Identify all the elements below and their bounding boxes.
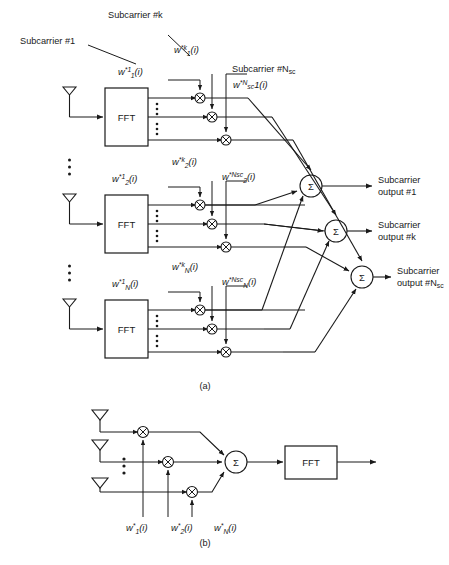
svg-text:w*k1(i): w*k1(i) — [174, 44, 199, 58]
antenna-ellipsis-top — [68, 159, 71, 176]
weight-label-w-1-1: w*11(i) — [118, 66, 143, 80]
link-row2sc1-to-sum1 — [255, 191, 297, 205]
row-N-group: FFT — [63, 286, 305, 358]
antenna-N-icon — [63, 299, 103, 329]
svg-text:w*1(i): w*1(i) — [126, 522, 148, 536]
wb-N-arg: (i) — [228, 522, 236, 533]
panel-b-multiplier-1 — [138, 427, 149, 438]
panel-b-antenna-ellipsis — [122, 457, 125, 474]
multiplier-rowN-sc1 — [195, 305, 205, 315]
link-row1sck-to-sumk — [272, 117, 336, 215]
w-k-1-arg: (i) — [191, 44, 199, 55]
link-row1scnsc-to-sumnsc — [293, 140, 362, 261]
link-row2scnsc-to-sumnsc — [306, 247, 349, 271]
link-rowNsc1-to-sum1 — [262, 196, 303, 310]
weight-line-w-1-2 — [168, 187, 200, 197]
w-k-N-arg: (i) — [190, 261, 198, 272]
svg-text:w*12(i): w*12(i) — [112, 173, 137, 187]
svg-text:w*N(i): w*N(i) — [214, 522, 237, 536]
multiplier-row2-scnsc — [221, 242, 231, 252]
weight-line-w-1-N — [168, 292, 200, 302]
multiplier-row1-sc1 — [195, 93, 205, 103]
panel-b-summer: Σ — [225, 451, 247, 473]
panel-b-weight-label-2: w*2(i) — [171, 522, 193, 536]
panel-b-group: Σ FFT w*1(i) w*2(i) w*N(i) (b) — [92, 410, 376, 548]
fft-block-row-2-label: FFT — [118, 219, 136, 230]
antenna-ellipsis-bottom — [68, 265, 71, 282]
w-1-N-arg: (i) — [130, 278, 138, 289]
svg-text:Subcarrier #Nsc: Subcarrier #Nsc — [232, 64, 296, 75]
svg-text:w*11(i): w*11(i) — [118, 66, 143, 80]
output-label-nsc-sub: sc — [437, 282, 444, 289]
panel-b-antenna-1-icon — [92, 410, 138, 432]
wb-2-arg: (i) — [184, 522, 192, 533]
summer-nsc-label: Σ — [359, 272, 365, 283]
multiplier-row1-sck — [207, 112, 217, 122]
caption-panel-b: (b) — [199, 538, 210, 548]
antenna-2-icon — [63, 194, 103, 224]
figure-canvas: FFT — [0, 0, 449, 565]
output-label-nsc-line2: output #N — [397, 278, 437, 288]
fft-block-row-N-label: FFT — [118, 324, 136, 335]
svg-text:w*1N(i): w*1N(i) — [112, 278, 138, 292]
weight-label-w-nsc-N: w*NscN(i) — [222, 276, 256, 290]
panel-b-weight-label-N: w*N(i) — [214, 522, 237, 536]
w-nsc-2-arg: (i) — [247, 171, 255, 182]
label-subcarrier-nsc: Subcarrier #Nsc — [232, 64, 296, 75]
w-k-2-arg: (i) — [189, 156, 197, 167]
label-subcarrier-k: Subcarrier #k — [108, 10, 163, 20]
output-label-1-line2: output #1 — [378, 187, 416, 197]
fft1-output-ellipsis — [156, 103, 159, 136]
row-2-group: FFT — [63, 181, 305, 253]
multiplier-rowN-sck — [207, 324, 217, 334]
weight-label-w-nsc-2: w*Nsc2(i) — [222, 171, 255, 185]
caption-panel-a: (a) — [199, 381, 210, 391]
summer-subcarrier-nsc: Σ — [351, 266, 373, 288]
summer-1-label: Σ — [308, 181, 314, 192]
w-nsc-2-sup: *N — [229, 171, 237, 178]
link-rowNsck-to-sumk — [290, 241, 329, 329]
link-rowNscnsc-to-sumnsc — [315, 289, 356, 352]
w-nsc-N-arg: (i) — [248, 276, 256, 287]
label-subcarrier-1: Subcarrier #1 — [20, 36, 75, 46]
link-row2sck-to-sumk — [264, 224, 323, 231]
multiplier-rowN-scnsc — [221, 347, 231, 357]
antenna-1-icon — [63, 87, 103, 117]
weight-label-w-1-N: w*1N(i) — [112, 278, 138, 292]
panel-b-link-1-to-sum — [149, 432, 224, 455]
weight-label-w-k-1: w*k1(i) — [174, 44, 199, 58]
weight-label-w-1-2: w*12(i) — [112, 173, 137, 187]
output-label-1-line1: Subcarrier — [378, 175, 420, 185]
link-row1sc1-to-sum1 — [248, 98, 311, 170]
svg-text:w*2(i): w*2(i) — [171, 522, 193, 536]
multiplier-row2-sc1 — [195, 200, 205, 210]
wb-1-arg: (i) — [139, 522, 147, 533]
panel-b-summer-label: Σ — [233, 457, 239, 468]
panel-b-fft-label: FFT — [302, 457, 320, 468]
panel-b-link-N-to-sum — [198, 472, 224, 492]
block-diagram: FFT — [0, 0, 449, 565]
w-nsc-1-arg: (i) — [259, 79, 267, 90]
weight-label-w-k-N: w*kN(i) — [172, 261, 198, 275]
label-subcarrier-nsc-sub: sc — [289, 68, 296, 75]
w-1-1-arg: (i) — [134, 66, 142, 77]
output-label-k-line2: output #k — [378, 232, 416, 242]
panel-b-antenna-2-icon — [92, 440, 163, 462]
panel-b-multiplier-N — [187, 487, 198, 498]
weight-line-w-1-1 — [168, 80, 200, 90]
multiplier-row1-scnsc — [221, 135, 231, 145]
svg-text:w*NscN(i): w*NscN(i) — [222, 276, 256, 290]
svg-text:w*k2(i): w*k2(i) — [172, 156, 197, 170]
summer-k-label: Σ — [333, 226, 339, 237]
output-label-nsc: Subcarrier output #Nsc — [397, 266, 444, 289]
svg-text:w*Nsc2(i): w*Nsc2(i) — [222, 171, 255, 185]
svg-text:w*kN(i): w*kN(i) — [172, 261, 198, 275]
weight-label-w-nsc-1: w*Nsc1(i) — [233, 79, 268, 90]
fftN-output-ellipsis — [156, 315, 159, 348]
output-label-nsc-line1: Subcarrier — [397, 266, 439, 276]
summer-subcarrier-k: Σ — [325, 220, 347, 242]
w-nsc-1-sup: *N — [240, 79, 248, 86]
svg-text:output #Nsc: output #Nsc — [397, 278, 444, 289]
output-label-k: Subcarrier output #k — [378, 220, 420, 242]
panel-b-weight-label-1: w*1(i) — [126, 522, 148, 536]
